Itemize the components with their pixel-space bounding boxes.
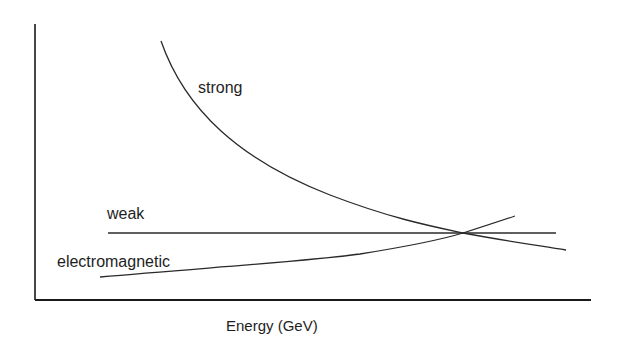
x-axis-label: Energy (GeV) xyxy=(226,318,318,333)
curves xyxy=(100,41,566,277)
weak-label: weak xyxy=(107,206,144,222)
force-unification-diagram xyxy=(0,0,626,346)
electromagnetic-label: electromagnetic xyxy=(57,254,170,270)
strong-label: strong xyxy=(198,80,242,96)
